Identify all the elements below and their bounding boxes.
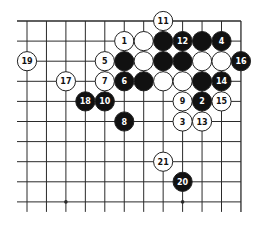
- white-stone: 9: [173, 92, 192, 111]
- stone-disc: [154, 52, 173, 71]
- white-stone: 5: [95, 52, 114, 71]
- stone-disc: [134, 31, 153, 50]
- white-stone: 21: [154, 152, 173, 171]
- white-stone: 11: [154, 11, 173, 30]
- white-stone: 1: [115, 31, 134, 50]
- move-number: 7: [102, 77, 108, 86]
- move-number: 14: [216, 77, 228, 86]
- black-stone: 16: [231, 52, 250, 71]
- white-stone: [154, 72, 173, 91]
- black-stone: 20: [173, 172, 192, 191]
- black-stone: [134, 72, 153, 91]
- move-number: 4: [219, 37, 225, 46]
- white-stone: 19: [17, 52, 36, 71]
- black-stone: [192, 31, 211, 50]
- stone-disc: [154, 72, 173, 91]
- black-stone: 6: [115, 72, 134, 91]
- move-number: 1: [121, 37, 127, 46]
- black-stone: 18: [76, 92, 95, 111]
- white-stone: 7: [95, 72, 114, 91]
- move-number: 16: [235, 57, 247, 66]
- move-number: 10: [99, 97, 111, 106]
- white-stone: [134, 52, 153, 71]
- move-number: 9: [180, 97, 186, 106]
- move-number: 3: [180, 118, 186, 127]
- move-number: 11: [158, 17, 170, 26]
- stone-disc: [192, 52, 211, 71]
- stone-disc: [154, 31, 173, 50]
- move-number: 13: [196, 118, 207, 127]
- star-point: [64, 200, 68, 204]
- black-stone: [192, 72, 211, 91]
- white-stone: 15: [212, 92, 231, 111]
- stone-disc: [134, 52, 153, 71]
- move-number: 19: [21, 57, 33, 66]
- star-point: [181, 200, 185, 204]
- black-stone: 12: [173, 31, 192, 50]
- black-stone: 14: [212, 72, 231, 91]
- move-number: 15: [216, 97, 228, 106]
- black-stone: [154, 52, 173, 71]
- black-stone: 2: [192, 92, 211, 111]
- black-stone: [154, 31, 173, 50]
- black-stone: [115, 52, 134, 71]
- move-number: 20: [177, 178, 189, 187]
- stone-disc: [115, 52, 134, 71]
- go-board: 111124195161776141810921583132120: [0, 0, 261, 230]
- stone-disc: [134, 72, 153, 91]
- white-stone: 3: [173, 112, 192, 131]
- stone-disc: [173, 72, 192, 91]
- stone-disc: [212, 52, 231, 71]
- stone-disc: [173, 52, 192, 71]
- stone-disc: [192, 72, 211, 91]
- move-number: 6: [121, 77, 127, 86]
- move-number: 12: [177, 37, 188, 46]
- white-stone: 13: [192, 112, 211, 131]
- black-stone: 4: [212, 31, 231, 50]
- move-number: 17: [60, 77, 71, 86]
- black-stone: 10: [95, 92, 114, 111]
- move-number: 5: [102, 57, 108, 66]
- white-stone: [192, 52, 211, 71]
- black-stone: 8: [115, 112, 134, 131]
- move-number: 18: [80, 97, 92, 106]
- white-stone: [134, 31, 153, 50]
- move-number: 8: [121, 118, 127, 127]
- white-stone: 17: [56, 72, 75, 91]
- stone-disc: [192, 31, 211, 50]
- white-stone: [212, 52, 231, 71]
- white-stone: [173, 72, 192, 91]
- move-number: 21: [158, 158, 170, 167]
- black-stone: [173, 52, 192, 71]
- move-number: 2: [199, 97, 205, 106]
